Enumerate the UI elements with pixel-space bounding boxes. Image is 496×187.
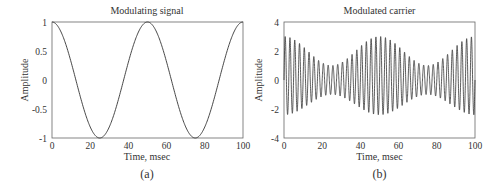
x-tick-label: 40 [356,141,366,151]
x-tick-label: 40 [124,141,134,151]
panel-b-caption: (b) [373,167,387,181]
y-tick-label: -2 [271,105,279,115]
panel-b-x-ticks: 0 20 40 60 80 100 [282,141,483,151]
y-tick-label: 0 [274,76,279,86]
y-tick-label: -1 [39,134,47,144]
panel-a-x-ticks: 0 20 40 60 80 100 [50,141,251,151]
x-tick-label: 100 [468,141,483,151]
modulating-signal-line [52,22,243,138]
x-tick-label: 60 [162,141,172,151]
x-tick-label: 80 [432,141,442,151]
panel-a: Modulating signal 1 0.5 0 -0.5 -1 0 20 4… [19,5,250,181]
x-tick-label: 80 [200,141,210,151]
x-tick-label: 100 [236,141,251,151]
x-tick-label: 20 [317,141,327,151]
x-tick-label: 0 [282,141,287,151]
panel-a-ylabel: Amplitude [19,58,30,101]
x-tick-label: 60 [394,141,404,151]
panel-b-ylabel: Amplitude [253,58,264,101]
x-tick-label: 0 [50,141,55,151]
panel-b-y-ticks: 4 2 0 -2 -4 [271,18,279,144]
panel-b-title: Modulated carrier [344,5,417,16]
figure: Modulating signal 1 0.5 0 -0.5 -1 0 20 4… [0,0,496,187]
y-tick-label: 0.5 [35,47,47,57]
modulated-carrier-line [284,37,475,115]
panel-a-axes [52,22,243,138]
panel-b: Modulated carrier 4 2 0 -2 -4 0 20 40 60… [253,5,482,181]
y-tick-label: 1 [42,18,47,28]
x-tick-label: 20 [85,141,95,151]
panel-a-title: Modulating signal [110,5,183,16]
panel-a-xlabel: Time, msec [124,151,171,162]
panel-a-caption: (a) [140,167,153,181]
y-tick-label: -4 [271,134,279,144]
panel-b-xlabel: Time, msec [356,151,403,162]
y-tick-label: 0 [42,76,47,86]
panel-a-y-ticks: 1 0.5 0 -0.5 -1 [32,18,47,144]
y-tick-label: 2 [274,47,279,57]
y-tick-label: 4 [274,18,279,28]
y-tick-label: -0.5 [32,105,47,115]
